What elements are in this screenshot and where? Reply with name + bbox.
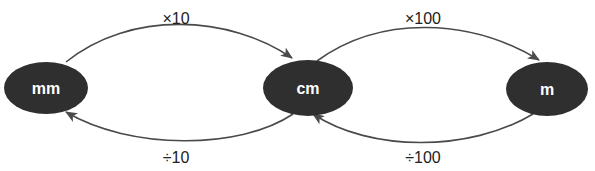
edge-label-divide-100: ÷100 (405, 149, 441, 166)
arrow-cm-to-mm (66, 112, 293, 141)
edge-label-divide-10: ÷10 (163, 149, 190, 166)
edge-mm-to-cm: ×10 (66, 10, 292, 62)
edge-label-times-100: ×100 (405, 10, 441, 27)
arrow-cm-to-m (317, 27, 539, 61)
node-cm: cm (263, 60, 353, 116)
unit-conversion-diagram: ×10 ÷10 ×100 ÷100 mm cm m (0, 0, 595, 171)
node-cm-label: cm (296, 80, 319, 97)
node-m-label: m (540, 81, 554, 98)
node-m: m (506, 62, 588, 116)
node-mm-label: mm (32, 80, 60, 97)
arrow-m-to-cm (313, 114, 533, 143)
edge-label-times-10: ×10 (162, 10, 189, 27)
edge-cm-to-mm: ÷10 (66, 112, 293, 166)
edge-cm-to-m: ×100 (317, 10, 539, 61)
edge-m-to-cm: ÷100 (313, 114, 533, 166)
node-mm: mm (4, 62, 88, 114)
arrow-mm-to-cm (66, 24, 292, 62)
